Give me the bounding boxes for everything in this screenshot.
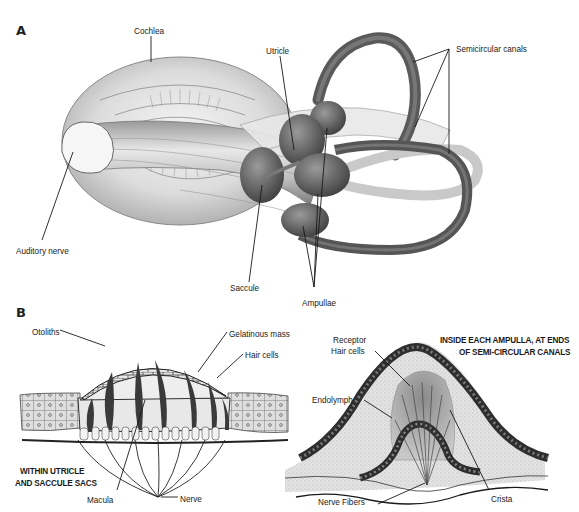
label-nerve: Nerve [180,493,202,504]
label-semicircular-canals: Semicircular canals [456,43,527,54]
label-receptor: Receptor [333,334,366,345]
caption-within-utricle-line1: WITHIN UTRICLE [20,465,84,476]
panel-b-letter: B [16,305,26,320]
label-hair-cells: Hair cells [245,349,279,360]
inner-ear-illustration [0,0,579,512]
label-endolymph: Endolymph [312,394,353,405]
panel-a-drawing [62,38,478,250]
label-auditory-nerve: Auditory nerve [16,245,69,256]
label-ampullae: Ampullae [302,297,336,308]
label-receptor-hair-cells: Hair cells [331,345,365,356]
inner-ear-figure: A B Cochlea Utricle Semicircular canals … [0,0,579,512]
caption-within-utricle-line2: AND SACCULE SACS [15,477,97,488]
label-cochlea: Cochlea [134,25,164,36]
label-saccule: Saccule [230,282,259,293]
label-macula: Macula [87,494,113,505]
label-gelatinous-mass: Gelatinous mass [229,328,290,339]
label-utricle: Utricle [266,45,289,56]
panel-a-letter: A [16,23,26,38]
label-otoliths: Otoliths [32,326,60,337]
label-crista: Crista [491,493,512,504]
caption-ampulla-line1: INSIDE EACH AMPULLA, AT ENDS [440,334,569,345]
panel-b-right-drawing [285,342,548,504]
caption-ampulla-line2: OF SEMI-CIRCULAR CANALS [459,346,570,357]
label-nerve-fibers: Nerve Fibers [318,496,365,507]
